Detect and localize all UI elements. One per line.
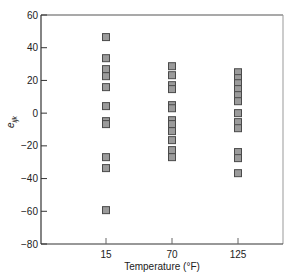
data-point-square-marker bbox=[235, 155, 242, 162]
y-tick-label: −20 bbox=[21, 140, 38, 151]
data-point-square-marker bbox=[103, 103, 110, 110]
data-point-square-marker bbox=[103, 121, 110, 128]
x-axis-title: Temperature (°F) bbox=[124, 261, 200, 272]
data-point-square-marker bbox=[169, 147, 176, 154]
data-point-square-marker bbox=[169, 128, 176, 135]
y-axis-ticks: 6040200−20−40−60−80 bbox=[21, 10, 47, 250]
y-tick-label: 40 bbox=[27, 42, 39, 53]
data-point-square-marker bbox=[169, 105, 176, 112]
data-point-square-marker bbox=[169, 86, 176, 93]
data-point-square-marker bbox=[235, 98, 242, 105]
data-point-square-marker bbox=[103, 73, 110, 80]
x-tick-label: 15 bbox=[100, 249, 112, 260]
data-point-square-marker bbox=[103, 154, 110, 161]
y-tick-label: −60 bbox=[21, 206, 38, 217]
data-point-square-marker bbox=[169, 137, 176, 144]
data-point-square-marker bbox=[235, 170, 242, 177]
data-point-square-marker bbox=[169, 154, 176, 161]
data-point-square-marker bbox=[103, 66, 110, 73]
data-point-square-marker bbox=[103, 84, 110, 91]
data-point-square-marker bbox=[103, 165, 110, 172]
x-tick-label: 125 bbox=[230, 249, 247, 260]
data-point-square-marker bbox=[235, 110, 242, 117]
x-axis-ticks: 1570125 bbox=[100, 238, 246, 260]
residual-scatter-chart: 6040200−20−40−60−80 1570125 Temperature … bbox=[0, 0, 293, 277]
data-point-square-marker bbox=[169, 63, 176, 70]
plot-frame bbox=[41, 15, 283, 244]
y-tick-label: 20 bbox=[27, 75, 39, 86]
x-tick-label: 70 bbox=[166, 249, 178, 260]
data-point-square-marker bbox=[169, 72, 176, 79]
y-tick-label: 60 bbox=[27, 10, 39, 21]
data-point-square-marker bbox=[235, 125, 242, 132]
data-point-square-marker bbox=[103, 34, 110, 41]
data-point-square-marker bbox=[103, 55, 110, 62]
y-tick-label: −80 bbox=[21, 239, 38, 250]
data-point-square-marker bbox=[103, 207, 110, 214]
data-points bbox=[103, 34, 242, 214]
data-point-square-marker bbox=[169, 121, 176, 128]
y-axis-title-sub: ijk bbox=[11, 115, 19, 122]
y-axis-title: eijk bbox=[5, 115, 19, 128]
y-tick-label: −40 bbox=[21, 173, 38, 184]
y-tick-label: 0 bbox=[32, 108, 38, 119]
